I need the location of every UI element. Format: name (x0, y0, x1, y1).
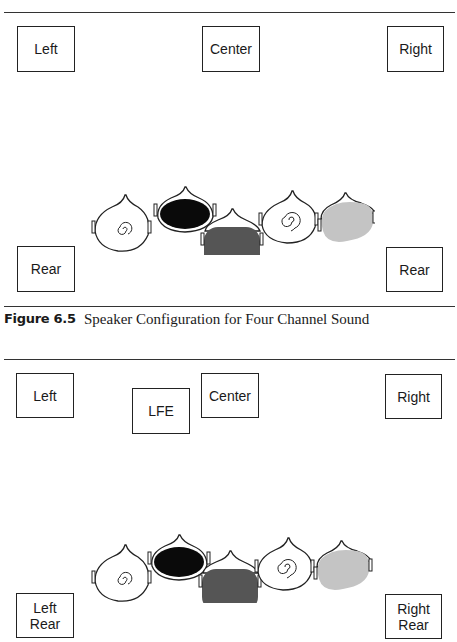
listener-head-black-icon (148, 535, 210, 580)
figure-caption-text: Speaker Configuration for Four Channel S… (84, 311, 369, 328)
listener-head-light-gray-icon (314, 541, 372, 590)
listener-head-spiral-large-icon (259, 191, 318, 243)
figure-number: Figure 6.5 (4, 311, 84, 328)
listener-heads-group-2 (85, 533, 375, 603)
speaker-right-rear: Right Rear (385, 594, 442, 639)
listener-head-spiral-large-icon (255, 538, 314, 590)
speaker-rear-left: Rear (17, 246, 75, 292)
speaker-left-2: Left (16, 373, 74, 418)
speaker-left: Left (17, 26, 75, 72)
top-rule (4, 12, 455, 13)
speaker-right: Right (387, 26, 444, 72)
listener-head-spiral-small-icon (92, 545, 151, 601)
speaker-center: Center (202, 26, 260, 72)
listener-head-black-icon (154, 187, 216, 232)
speaker-right-2: Right (385, 374, 442, 419)
speaker-left-rear: Left Rear (16, 593, 74, 638)
listener-head-light-gray-icon (318, 193, 375, 242)
speaker-rear-right: Rear (386, 247, 443, 292)
figure-caption: Figure 6.5 Speaker Configuration for Fou… (4, 311, 369, 328)
speaker-lfe: LFE (132, 388, 190, 434)
listener-head-spiral-small-icon (92, 195, 151, 251)
caption-rule (4, 306, 455, 307)
listener-heads-group (85, 185, 375, 255)
second-figure-rule (4, 359, 455, 360)
speaker-center-2: Center (201, 373, 259, 418)
